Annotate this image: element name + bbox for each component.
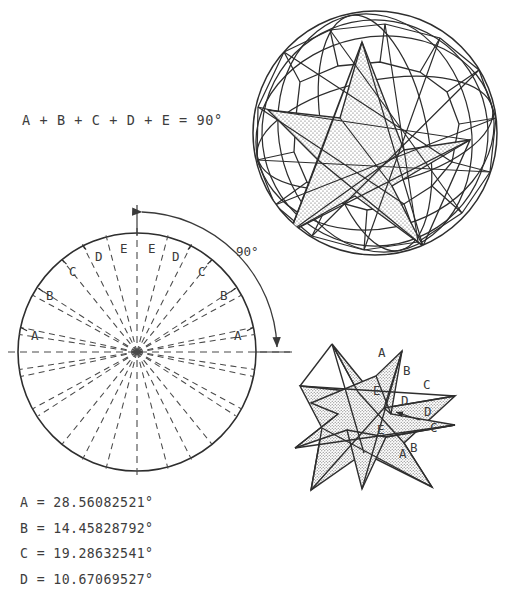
star-label-E-upper: E: [373, 383, 381, 398]
star-label-A-top: A: [378, 345, 386, 360]
star-label-B-top: B: [403, 363, 411, 378]
angle-row-A: A = 28.56082521°: [20, 490, 153, 516]
star-label-A-bottom: A: [399, 446, 407, 461]
protractor-label-C-right: C: [198, 264, 206, 279]
star-label-C-lower: C: [430, 420, 438, 435]
angle-values-list: A = 28.56082521° B = 14.45828792° C = 19…: [20, 490, 153, 592]
protractor-label-A-right: A: [234, 328, 242, 343]
sphere-contents: [238, 0, 513, 270]
protractor-label-A-left: A: [31, 328, 39, 343]
arc-angle-label: 90°: [236, 244, 259, 259]
angle-row-C: C = 19.28632541°: [20, 541, 153, 567]
protractor-label-E-left: E: [120, 241, 128, 256]
angle-row-D: D = 10.67069527°: [20, 567, 153, 593]
protractor-label-E-right: E: [148, 241, 156, 256]
star-label-E-lower: E: [377, 422, 385, 437]
protractor-label-D-left: D: [95, 249, 103, 264]
star-label-D-arrow: D: [424, 404, 432, 419]
star-label-D-inner: D: [401, 393, 409, 408]
arc-path: [142, 212, 277, 347]
diagram-page: A + B + C + D + E = 90°: [0, 0, 521, 597]
ninety-degree-arc: 90°: [137, 205, 292, 352]
star-label-B-lower: B: [410, 440, 418, 455]
protractor-label-B-left: B: [46, 288, 54, 303]
protractor-label-C-left: C: [69, 264, 77, 279]
spherical-star-polyhedron: [238, 0, 513, 270]
protractor-label-D-right: D: [172, 249, 180, 264]
angle-row-B: B = 14.45828792°: [20, 516, 153, 542]
protractor-label-B-right: B: [220, 288, 228, 303]
star-label-C-upper: C: [423, 377, 431, 392]
flat-star-figure: A B C D D E E C B A: [295, 344, 455, 490]
sphere-star-shaded: [268, 42, 470, 246]
